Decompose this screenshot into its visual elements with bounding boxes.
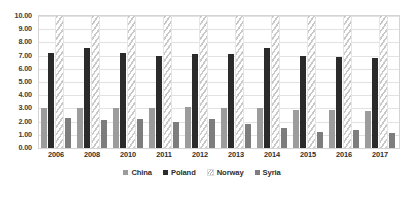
bar-norway-2017[interactable] xyxy=(379,16,388,148)
legend-label: China xyxy=(131,168,152,177)
bar-china-2006[interactable] xyxy=(41,108,47,148)
bar-poland-2016[interactable] xyxy=(336,57,342,148)
bar-norway-2015[interactable] xyxy=(307,16,316,148)
bar-china-2012[interactable] xyxy=(185,107,191,148)
bar-poland-2006[interactable] xyxy=(48,53,54,148)
bar-poland-2008[interactable] xyxy=(84,48,90,148)
legend-item-china[interactable]: China xyxy=(123,168,152,177)
x-axis-tick-label: 2008 xyxy=(74,150,110,159)
legend-item-syria[interactable]: Syria xyxy=(255,168,281,177)
bar-syria-2017[interactable] xyxy=(389,133,395,148)
bar-group xyxy=(110,15,146,148)
x-axis-tick-label: 2011 xyxy=(146,150,182,159)
bar-poland-2010[interactable] xyxy=(120,53,126,148)
bar-poland-2012[interactable] xyxy=(192,54,198,148)
x-axis: 2006200820102011201220132014201520162017 xyxy=(38,150,398,159)
bar-poland-2011[interactable] xyxy=(156,56,162,148)
x-axis-tick-label: 2017 xyxy=(362,150,398,159)
y-axis-tick-label: 9.00 xyxy=(18,24,32,33)
bar-chart: 10.009.008.007.006.005.004.003.002.001.0… xyxy=(0,0,404,197)
x-axis-tick-label: 2013 xyxy=(218,150,254,159)
bar-china-2011[interactable] xyxy=(149,108,155,148)
bar-china-2008[interactable] xyxy=(77,108,83,148)
x-axis-tick-label: 2014 xyxy=(254,150,290,159)
legend-item-poland[interactable]: Poland xyxy=(163,168,196,177)
legend-label: Poland xyxy=(171,168,196,177)
bar-syria-2015[interactable] xyxy=(317,132,323,148)
bar-china-2014[interactable] xyxy=(257,108,263,148)
bar-syria-2016[interactable] xyxy=(353,130,359,148)
bar-group xyxy=(362,15,398,148)
x-axis-tick-label: 2006 xyxy=(38,150,74,159)
bar-group xyxy=(74,15,110,148)
bar-china-2017[interactable] xyxy=(365,111,371,148)
bar-group xyxy=(218,15,254,148)
bar-poland-2017[interactable] xyxy=(372,58,378,148)
x-axis-tick-label: 2016 xyxy=(326,150,362,159)
bar-syria-2010[interactable] xyxy=(137,119,143,148)
bar-poland-2014[interactable] xyxy=(264,48,270,148)
bar-china-2013[interactable] xyxy=(221,108,227,148)
y-axis-tick-label: 8.00 xyxy=(18,37,32,46)
bar-syria-2008[interactable] xyxy=(101,120,107,148)
bar-syria-2013[interactable] xyxy=(245,124,251,148)
bar-group xyxy=(38,15,74,148)
bar-norway-2010[interactable] xyxy=(127,16,136,148)
bar-group xyxy=(254,15,290,148)
bar-group xyxy=(290,15,326,148)
y-axis-tick-label: 5.00 xyxy=(18,77,32,86)
bar-syria-2014[interactable] xyxy=(281,128,287,148)
x-axis-tick-label: 2012 xyxy=(182,150,218,159)
legend-swatch-china-icon xyxy=(123,170,128,175)
legend-swatch-syria-icon xyxy=(255,170,260,175)
bar-group xyxy=(326,15,362,148)
x-axis-tick-label: 2015 xyxy=(290,150,326,159)
gridline xyxy=(39,148,399,149)
bar-china-2010[interactable] xyxy=(113,108,119,148)
bar-norway-2012[interactable] xyxy=(199,16,208,148)
bar-norway-2011[interactable] xyxy=(163,16,172,148)
bar-china-2015[interactable] xyxy=(293,110,299,148)
bar-norway-2014[interactable] xyxy=(271,16,280,148)
bars-layer xyxy=(38,15,398,148)
bar-syria-2006[interactable] xyxy=(65,118,71,148)
legend-item-norway[interactable]: Norway xyxy=(207,168,244,177)
bar-norway-2013[interactable] xyxy=(235,16,244,148)
bar-syria-2011[interactable] xyxy=(173,122,179,148)
bar-poland-2013[interactable] xyxy=(228,54,234,148)
chart-legend: ChinaPolandNorwaySyria xyxy=(0,168,404,177)
bar-norway-2016[interactable] xyxy=(343,16,352,148)
x-axis-tick-label: 2010 xyxy=(110,150,146,159)
legend-swatch-norway-icon xyxy=(207,169,214,176)
bar-norway-2008[interactable] xyxy=(91,16,100,148)
legend-label: Norway xyxy=(217,168,244,177)
bar-group xyxy=(182,15,218,148)
y-axis-tick-label: 2.00 xyxy=(18,116,32,125)
legend-swatch-poland-icon xyxy=(163,170,168,175)
y-axis-tick-label: 1.00 xyxy=(18,129,32,138)
y-axis-tick-label: 10.00 xyxy=(15,11,33,20)
y-axis-tick-label: 4.00 xyxy=(18,90,32,99)
bar-poland-2015[interactable] xyxy=(300,56,306,148)
y-axis-tick-label: 7.00 xyxy=(18,50,32,59)
bar-china-2016[interactable] xyxy=(329,110,335,148)
bar-syria-2012[interactable] xyxy=(209,119,215,148)
bar-group xyxy=(146,15,182,148)
y-axis-tick-label: 0.00 xyxy=(18,143,32,152)
y-axis-tick-label: 6.00 xyxy=(18,63,32,72)
y-axis-tick-label: 3.00 xyxy=(18,103,32,112)
legend-label: Syria xyxy=(263,168,281,177)
bar-norway-2006[interactable] xyxy=(55,16,64,148)
